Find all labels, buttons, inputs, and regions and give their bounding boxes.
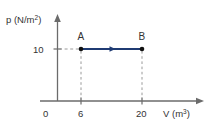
data-point-a	[79, 47, 84, 52]
y-axis-label-tail: )	[38, 14, 41, 25]
data-point-b	[140, 47, 145, 52]
x-tick-label-20: 20	[136, 108, 147, 119]
x-axis-label-base: V (m	[163, 108, 183, 119]
data-point-label-b: B	[139, 31, 146, 42]
y-tick-label-10: 10	[33, 44, 44, 55]
data-point-label-a: A	[78, 31, 85, 42]
x-axis-label: V (m3)	[163, 108, 190, 120]
x-tick-label-6: 6	[78, 108, 83, 119]
y-axis-label-base: p (N/m	[6, 14, 35, 25]
x-axis-label-tail: )	[187, 108, 190, 119]
pv-diagram-chart: p (N/m2) V (m3) 10 0 6 20 A B	[0, 0, 215, 125]
x-tick-label-0: 0	[43, 108, 48, 119]
chart-canvas: p (N/m2) V (m3) 10 0 6 20 A B	[0, 0, 215, 125]
